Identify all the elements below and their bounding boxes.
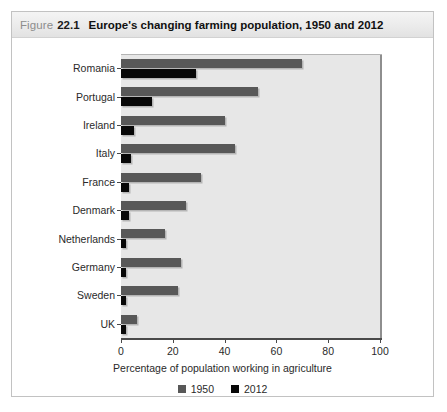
bar-1950-netherlands (121, 229, 165, 238)
legend-swatch-2012 (231, 385, 239, 393)
bar-2012-netherlands (121, 239, 126, 248)
y-axis-label: Portugal (76, 91, 115, 103)
bar-2012-portugal (121, 97, 152, 106)
y-axis-label: Denmark (72, 204, 115, 216)
y-axis-label: Romania (73, 62, 115, 74)
figure-label-word: Figure (20, 19, 53, 31)
figure-title: Europe's changing farming population, 19… (89, 19, 384, 31)
bar-group: Portugal (121, 82, 380, 110)
x-axis-tick (121, 338, 122, 343)
x-axis-tick-label: 40 (219, 345, 231, 357)
bar-group: Italy (121, 139, 380, 167)
x-axis-tick (380, 338, 381, 343)
x-axis-title: Percentage of population working in agri… (12, 362, 433, 374)
y-axis-label: France (82, 176, 115, 188)
x-axis-tick (276, 338, 277, 343)
x-axis-tick (328, 338, 329, 343)
bar-1950-romania (121, 59, 302, 68)
bar-group: Netherlands (121, 224, 380, 252)
x-axis-tick (173, 338, 174, 343)
y-axis-label: Sweden (77, 289, 115, 301)
x-axis-tick-label: 20 (167, 345, 179, 357)
legend-item: 2012 (231, 383, 267, 395)
x-axis-tick (225, 338, 226, 343)
y-axis-label: Ireland (83, 119, 115, 131)
bar-1950-france (121, 173, 201, 182)
legend-item: 1950 (178, 383, 214, 395)
bar-2012-ireland (121, 126, 134, 135)
bar-group: Romania (121, 54, 380, 82)
bar-2012-germany (121, 268, 126, 277)
y-axis-label: Italy (96, 147, 115, 159)
bar-2012-sweden (121, 296, 126, 305)
y-axis-label: Netherlands (58, 233, 115, 245)
bar-group: Ireland (121, 111, 380, 139)
x-axis-tick-label: 60 (271, 345, 283, 357)
y-axis-label: Germany (72, 261, 115, 273)
bar-group: Sweden (121, 281, 380, 309)
x-axis-tick-label: 100 (371, 345, 389, 357)
x-axis-tick-label: 80 (322, 345, 334, 357)
bar-1950-denmark (121, 201, 186, 210)
figure-container: Figure 22.1 Europe's changing farming po… (11, 11, 434, 397)
x-axis-tick-label: 0 (118, 345, 124, 357)
bar-1950-germany (121, 258, 181, 267)
bar-2012-denmark (121, 211, 129, 220)
legend-swatch-1950 (178, 385, 186, 393)
bar-1950-sweden (121, 286, 178, 295)
bar-1950-portugal (121, 87, 258, 96)
bar-2012-romania (121, 69, 196, 78)
figure-number: 22.1 (57, 19, 79, 31)
x-axis-line (121, 338, 382, 340)
chart-area: RomaniaPortugalIrelandItalyFranceDenmark… (12, 38, 433, 396)
legend-label: 1950 (191, 383, 214, 395)
bar-2012-uk (121, 325, 126, 334)
bar-group: UK (121, 310, 380, 338)
bar-group: Germany (121, 253, 380, 281)
bar-2012-italy (121, 154, 131, 163)
bar-2012-france (121, 183, 129, 192)
bar-1950-italy (121, 144, 235, 153)
bar-group: France (121, 168, 380, 196)
bar-group: Denmark (121, 196, 380, 224)
figure-header: Figure 22.1 Europe's changing farming po… (12, 12, 433, 38)
bar-1950-ireland (121, 116, 225, 125)
chart-legend: 19502012 (12, 383, 433, 395)
y-axis-label: UK (100, 318, 115, 330)
legend-label: 2012 (244, 383, 267, 395)
bar-1950-uk (121, 315, 137, 324)
